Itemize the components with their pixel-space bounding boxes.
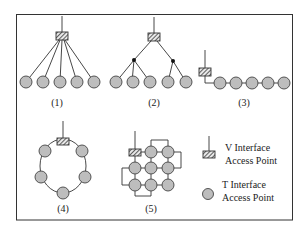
legend: V Interface Access Point T Interface Acc… — [203, 136, 278, 203]
t-interface-node-icon — [162, 146, 174, 158]
v-interface-access-point-icon — [199, 68, 211, 76]
t-interface-node-icon — [162, 179, 174, 191]
legend-t-line1: T Interface — [222, 179, 267, 190]
t-interface-node-icon — [162, 162, 174, 174]
t-interface-node-icon — [79, 171, 91, 183]
t-interface-legend-icon — [203, 189, 214, 200]
t-interface-node-icon — [214, 77, 226, 89]
topology-label: (3) — [238, 97, 250, 109]
topology-4-ring: (4) — [35, 121, 91, 215]
topology-5-mesh: (5) — [122, 131, 181, 215]
topology-label: (4) — [57, 203, 69, 215]
t-interface-node-icon — [145, 146, 157, 158]
t-interface-node-icon — [246, 77, 258, 89]
topology-label: (2) — [148, 97, 160, 109]
t-interface-node-icon — [127, 76, 139, 88]
junction-dot-icon — [171, 59, 175, 63]
t-interface-node-icon — [76, 145, 88, 157]
t-interface-node-icon — [35, 171, 47, 183]
t-interface-node-icon — [145, 179, 157, 191]
legend-v-line1: V Interface — [225, 142, 271, 153]
t-interface-node-icon — [39, 145, 51, 157]
topology-2-tree: (2) — [110, 17, 192, 109]
t-interface-node-icon — [71, 76, 83, 88]
v-interface-access-point-icon — [129, 149, 141, 156]
topology-label: (1) — [51, 97, 63, 109]
t-interface-node-icon — [262, 77, 274, 89]
t-interface-node-icon — [37, 76, 49, 88]
topology-1-star: (1) — [20, 16, 100, 109]
network-topology-diagram: (1) (2) (3) — [0, 0, 306, 230]
t-interface-node-icon — [230, 77, 242, 89]
v-interface-access-point-icon — [57, 138, 69, 145]
legend-t-line2: Access Point — [222, 192, 274, 203]
t-interface-node-icon — [129, 162, 141, 174]
topology-label: (5) — [145, 203, 157, 215]
v-interface-access-point-icon — [148, 33, 160, 41]
t-interface-node-icon — [20, 76, 32, 88]
topology-3-bus: (3) — [199, 50, 290, 109]
v-interface-access-point-icon — [56, 32, 68, 40]
t-interface-node-icon — [57, 187, 69, 199]
legend-v-line2: Access Point — [225, 155, 277, 166]
t-interface-node-icon — [162, 76, 174, 88]
t-interface-node-icon — [54, 76, 66, 88]
junction-dot-icon — [132, 58, 136, 62]
t-interface-node-icon — [145, 162, 157, 174]
t-interface-node-icon — [144, 76, 156, 88]
t-interface-node-icon — [180, 76, 192, 88]
v-interface-legend-icon — [203, 151, 215, 158]
t-interface-node-icon — [278, 77, 290, 89]
t-interface-node-icon — [129, 179, 141, 191]
t-interface-node-icon — [110, 76, 122, 88]
t-interface-node-icon — [88, 76, 100, 88]
